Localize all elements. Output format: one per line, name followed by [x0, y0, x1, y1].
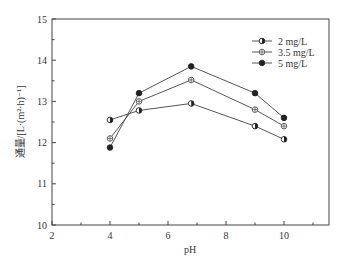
y-tick-label: 11	[37, 178, 47, 189]
data-series	[107, 64, 287, 151]
half-filled-circle-marker	[281, 137, 287, 143]
x-tick-label: 2	[50, 230, 55, 241]
filled-circle-marker	[281, 115, 287, 121]
legend-item: 2 mg/L	[252, 36, 307, 47]
filled-circle-marker	[107, 145, 113, 151]
crossed-circle-marker	[259, 49, 265, 55]
line-chart: 101112131415246810 2 mg/L3.5 mg/L5 mg/L …	[0, 0, 345, 268]
x-axis-title: pH	[184, 244, 196, 255]
half-filled-circle-marker	[188, 101, 194, 107]
filled-circle-marker	[259, 60, 265, 66]
legend-item: 3.5 mg/L	[252, 47, 315, 58]
filled-circle-marker	[252, 90, 258, 96]
y-tick-label: 10	[37, 220, 47, 231]
legend-label: 2 mg/L	[278, 36, 307, 47]
y-axis-title: 通量/[L·(m²·h)⁻¹]	[15, 86, 27, 159]
x-tick-label: 4	[108, 230, 113, 241]
half-filled-circle-marker	[252, 123, 258, 129]
y-tick-label: 12	[37, 137, 47, 148]
half-filled-circle-marker	[136, 108, 142, 114]
crossed-circle-marker	[188, 77, 194, 83]
legend-label: 3.5 mg/L	[278, 47, 315, 58]
series-line	[110, 66, 284, 147]
x-tick-label: 6	[166, 230, 171, 241]
legend: 2 mg/L3.5 mg/L5 mg/L	[252, 36, 315, 69]
y-tick-label: 13	[37, 96, 47, 107]
crossed-circle-marker	[281, 123, 287, 129]
crossed-circle-marker	[107, 136, 113, 142]
x-tick-label: 8	[224, 230, 229, 241]
crossed-circle-marker	[136, 99, 142, 105]
series-3-5-mg-l	[107, 77, 287, 141]
x-tick-label: 10	[279, 230, 289, 241]
y-tick-label: 14	[37, 55, 47, 66]
legend-item: 5 mg/L	[252, 58, 307, 69]
half-filled-circle-marker	[259, 38, 265, 44]
crossed-circle-marker	[252, 107, 258, 113]
filled-circle-marker	[136, 90, 142, 96]
half-filled-circle-marker	[107, 117, 113, 123]
y-tick-label: 15	[37, 14, 47, 25]
filled-circle-marker	[188, 64, 194, 70]
legend-label: 5 mg/L	[278, 58, 307, 69]
